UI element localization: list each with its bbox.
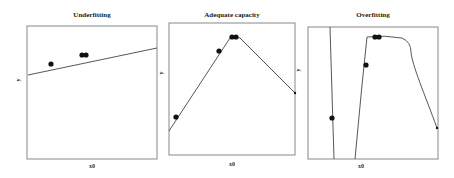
plot-frame	[27, 26, 157, 159]
data-point	[216, 48, 221, 53]
fit-curve-right-branch	[355, 36, 437, 159]
y-axis-label: y	[295, 69, 301, 72]
x-axis-label: x0	[89, 163, 95, 169]
panel-title: Overfitting	[356, 11, 390, 19]
fit-curve-left-branch	[330, 27, 334, 159]
data-point	[363, 62, 368, 67]
x-axis-label: x0	[229, 161, 235, 167]
panel-title: Adequate capacity	[204, 11, 260, 19]
plot-frame	[308, 27, 438, 159]
data-point	[329, 115, 334, 120]
panel-overfitting: Overfitting x0 y	[295, 11, 438, 169]
panel-adequate-capacity: Adequate capacity x0 y	[158, 11, 296, 167]
data-point	[48, 61, 53, 66]
panel-title: Underfitting	[73, 11, 111, 19]
y-axis-label: y	[15, 79, 21, 82]
data-point	[173, 114, 178, 119]
fit-line	[28, 48, 157, 75]
x-axis-label: x0	[358, 163, 364, 169]
figure: Underfitting x0 y Adequate capacity x0 y…	[0, 0, 454, 178]
plot-frame	[169, 23, 295, 155]
data-point	[83, 52, 88, 57]
panel-underfitting: Underfitting x0 y	[15, 11, 157, 169]
data-point	[233, 34, 238, 39]
curve-end-marker	[436, 127, 438, 129]
fit-curve	[169, 37, 295, 132]
data-point	[376, 34, 381, 39]
y-axis-label: y	[158, 72, 164, 75]
curve-end-marker	[294, 92, 296, 94]
